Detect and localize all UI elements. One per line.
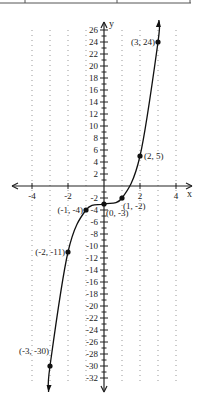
y-tick-label: 22 bbox=[89, 49, 98, 59]
y-tick-label: -28 bbox=[86, 349, 98, 359]
y-tick-label: 18 bbox=[89, 73, 99, 83]
data-point bbox=[119, 195, 124, 200]
y-tick-label: 2 bbox=[94, 169, 99, 179]
data-point bbox=[83, 207, 88, 212]
y-tick-label: -18 bbox=[86, 289, 98, 299]
y-tick-label: -14 bbox=[86, 265, 98, 275]
data-point bbox=[101, 201, 106, 206]
point-label: (2, 5) bbox=[144, 151, 164, 161]
data-point bbox=[65, 249, 70, 254]
y-tick-label: 14 bbox=[89, 97, 99, 107]
point-label: (1, -2) bbox=[123, 201, 146, 211]
x-tick-label: 2 bbox=[138, 191, 143, 201]
y-tick-label: -22 bbox=[86, 313, 98, 323]
y-tick-label: 24 bbox=[89, 37, 99, 47]
y-tick-label: 16 bbox=[89, 85, 99, 95]
x-axis-label: x bbox=[187, 188, 192, 199]
y-tick-label: -32 bbox=[86, 373, 98, 383]
point-label: (-1, -4) bbox=[58, 205, 84, 215]
y-tick-label: -26 bbox=[86, 337, 98, 347]
y-tick-label: -4 bbox=[91, 205, 99, 215]
y-tick-label: -6 bbox=[91, 217, 99, 227]
point-label: (3, 24) bbox=[131, 37, 155, 47]
x-tick-label: 4 bbox=[174, 191, 179, 201]
y-tick-label: 26 bbox=[89, 25, 99, 35]
y-tick-label: -24 bbox=[86, 325, 98, 335]
point-label: (-3, -30) bbox=[19, 346, 49, 356]
y-tick-label: -20 bbox=[86, 301, 98, 311]
y-tick-label: 12 bbox=[89, 109, 98, 119]
y-tick-label: 8 bbox=[94, 133, 99, 143]
y-tick-label: -16 bbox=[86, 277, 98, 287]
data-point bbox=[137, 153, 142, 158]
y-tick-label: 6 bbox=[94, 145, 99, 155]
y-tick-label: 10 bbox=[89, 121, 99, 131]
y-tick-label: -10 bbox=[86, 241, 98, 251]
y-tick-label: -12 bbox=[86, 253, 98, 263]
x-tick-label: -4 bbox=[28, 191, 36, 201]
point-label: (-2, -11) bbox=[35, 247, 65, 257]
y-tick-label: -30 bbox=[86, 361, 98, 371]
y-tick-label: -2 bbox=[91, 193, 99, 203]
cubic-graph: x-4-224y2624222018161412108642-2-4-6-8-1… bbox=[0, 0, 200, 399]
data-point bbox=[47, 363, 52, 368]
x-tick-label: -2 bbox=[64, 191, 72, 201]
y-axis-label: y bbox=[109, 18, 114, 29]
data-point bbox=[155, 39, 160, 44]
y-tick-label: 20 bbox=[89, 61, 99, 71]
y-tick-label: -8 bbox=[91, 229, 99, 239]
y-tick-label: 4 bbox=[94, 157, 99, 167]
